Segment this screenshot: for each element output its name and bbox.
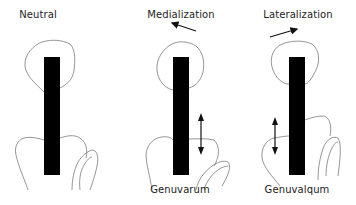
double-arrow-icon [198, 113, 204, 155]
fibula-inner-outline [326, 142, 338, 176]
panel-title-lateralization: Lateralization [263, 9, 333, 20]
fibula-outline [72, 150, 98, 190]
lateralization-arrow-icon [270, 29, 297, 37]
panel-neutral [15, 40, 97, 190]
femur-bar [173, 57, 189, 175]
caption-genuvarum: Genuvarum [150, 184, 210, 195]
femur-bar [289, 57, 305, 175]
panel-lateralization [262, 29, 340, 186]
fibula-outline [318, 137, 340, 180]
panel-medialization [146, 23, 230, 190]
femur-bar [44, 57, 60, 175]
medialization-arrow-icon [172, 23, 196, 31]
fibula-inner-outline [80, 157, 92, 190]
double-arrow-icon [272, 117, 278, 155]
panel-title-medialization: Medialization [147, 9, 214, 20]
caption-genuvalqum: Genuvalqum [265, 184, 330, 195]
diagram-canvas [0, 0, 356, 205]
panel-title-neutral: Neutral [19, 9, 57, 20]
